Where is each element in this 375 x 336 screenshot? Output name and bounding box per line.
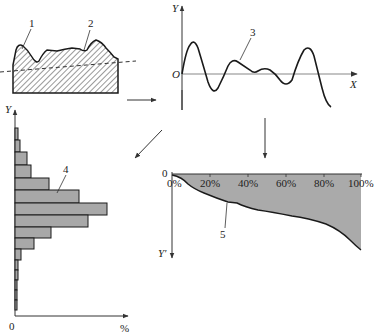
diagram-canvas: 1 2 Y X O 3 Y 0 %: [0, 0, 375, 336]
histogram-bar: [15, 249, 21, 260]
histogram-bar: [15, 300, 17, 310]
histogram-bar: [15, 290, 17, 300]
histogram-bar: [15, 227, 51, 238]
bearing-tick-20: 20%: [200, 177, 220, 189]
callout-2-label: 2: [88, 17, 94, 29]
histogram-bar: [15, 178, 49, 190]
histogram-origin-label: 0: [9, 320, 15, 332]
histogram-bar: [15, 165, 31, 178]
waveform-y-label: Y: [172, 2, 180, 14]
histogram-bar: [15, 128, 18, 140]
callout-5-leader: [225, 203, 227, 228]
callout-3-leader: [240, 38, 251, 60]
histogram-bar: [15, 238, 34, 249]
histogram-bar: [15, 190, 79, 203]
bearing-tick-80: 80%: [314, 177, 334, 189]
histogram-y-label: Y: [5, 103, 13, 115]
histogram-bar: [15, 203, 107, 215]
surface-profile-panel: 1 2: [0, 17, 136, 93]
callout-4-label: 4: [63, 163, 69, 175]
histogram-bars: [15, 128, 107, 310]
waveform-x-label: X: [349, 78, 358, 90]
histogram-bar: [15, 260, 18, 270]
callout-5-label: 5: [220, 228, 226, 240]
bearing-y-label: Y′: [158, 247, 167, 259]
callout-1-label: 1: [29, 17, 35, 29]
callout-1-leader: [22, 29, 31, 49]
histogram-bar: [15, 215, 88, 227]
histogram-bar: [15, 140, 20, 152]
bearing-tick-100: 100%: [348, 177, 374, 189]
bearing-tick-40: 40%: [238, 177, 258, 189]
histogram-bar: [15, 280, 17, 290]
histogram-panel: Y 0 % 4: [5, 103, 129, 334]
histogram-x-unit: %: [120, 322, 129, 334]
arrow-diagonal: [135, 130, 162, 158]
bearing-curve-panel: 0 Y′ 0% 20% 40% 60% 80% 100% 5: [158, 167, 374, 259]
callout-3-label: 3: [250, 26, 256, 38]
waveform-origin-label: O: [172, 68, 180, 80]
histogram-bar: [15, 152, 27, 165]
waveform-panel: Y X O 3: [172, 2, 358, 110]
bearing-tick-0: 0%: [167, 177, 182, 189]
bearing-tick-60: 60%: [276, 177, 296, 189]
histogram-bar: [15, 270, 18, 280]
